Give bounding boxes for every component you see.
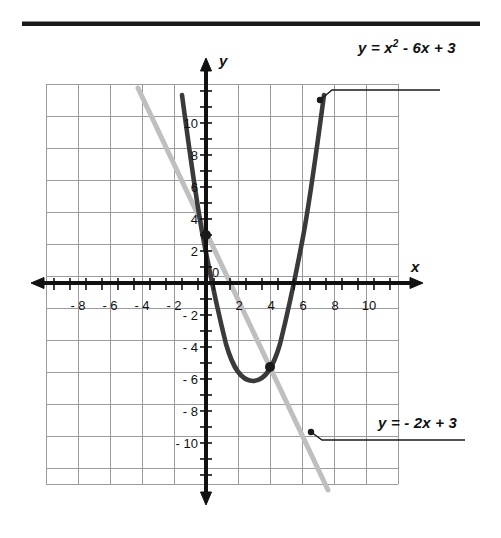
y-tick-label: - 4 [183, 340, 198, 355]
parabola-equation-prefix: y = x [358, 39, 393, 56]
origin-label: 0 [212, 265, 219, 280]
y-axis-label: y [219, 52, 227, 69]
x-tick-label: 2 [235, 298, 242, 313]
coordinate-graph-figure: - 8 - 6 - 4 - 2 2 4 6 8 10 10 8 6 4 2 - … [0, 0, 501, 538]
y-tick-label: 10 [184, 116, 198, 131]
y-tick-label: 4 [191, 212, 198, 227]
y-tick-label: 6 [191, 180, 198, 195]
x-tick-label: 10 [362, 298, 376, 313]
line-equation-label: y = - 2x + 3 [378, 414, 457, 431]
page-background [0, 0, 501, 538]
intersection-point-b [265, 362, 275, 372]
parabola-callout-anchor-dot [317, 97, 323, 103]
parabola-equation-suffix: - 6x + 3 [403, 39, 456, 56]
top-rule [22, 22, 480, 27]
y-tick-label: 8 [191, 148, 198, 163]
y-tick-label: - 2 [183, 308, 198, 323]
x-tick-label: 4 [267, 298, 274, 313]
y-tick-label: - 10 [176, 436, 198, 451]
line-callout-anchor-dot [308, 429, 314, 435]
x-axis-label: x [411, 258, 419, 275]
parabola-equation-label: y = x2 - 6x + 3 [358, 38, 456, 56]
x-tick-label: 8 [331, 298, 338, 313]
x-tick-label: - 8 [70, 298, 85, 313]
x-tick-label: - 2 [166, 298, 181, 313]
x-tick-label: 6 [299, 298, 306, 313]
y-tick-label: - 6 [183, 372, 198, 387]
intersection-point-a [201, 230, 211, 240]
parabola-equation-exponent: 2 [393, 38, 399, 49]
y-tick-label: 2 [191, 244, 198, 259]
x-tick-label: - 6 [102, 298, 117, 313]
y-tick-label: - 8 [183, 404, 198, 419]
x-tick-label: - 4 [134, 298, 149, 313]
